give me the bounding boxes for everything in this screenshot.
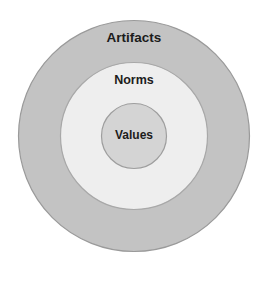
label-norms: Norms: [114, 73, 154, 87]
label-artifacts: Artifacts: [107, 30, 162, 45]
label-values: Values: [115, 128, 153, 142]
diagram-svg-canvas: Artifacts Norms Values: [0, 0, 268, 281]
concentric-circles-diagram: Artifacts Norms Values: [0, 0, 268, 281]
